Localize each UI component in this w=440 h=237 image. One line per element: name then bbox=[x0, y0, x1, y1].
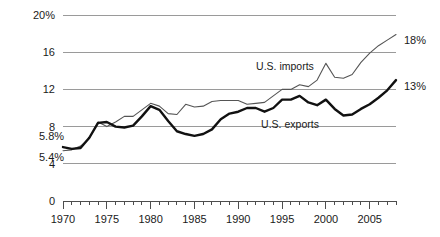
chart-container: 048121620% 19701975198019851990199520002… bbox=[0, 0, 440, 237]
gridlines bbox=[63, 15, 396, 164]
exports-end-value: 13% bbox=[404, 80, 426, 92]
imports-start-value: 5.4% bbox=[39, 151, 64, 163]
imports-series-label: U.S. imports bbox=[256, 60, 314, 72]
line-chart: 048121620% 19701975198019851990199520002… bbox=[0, 0, 440, 237]
x-axis bbox=[63, 201, 396, 209]
y-tick-label-16: 16 bbox=[43, 46, 55, 58]
y-tick-label-0: 0 bbox=[49, 195, 55, 207]
x-axis-labels: 19701975198019851990199520002005 bbox=[51, 213, 382, 225]
y-tick-label-20%: 20% bbox=[33, 9, 55, 21]
x-tick-label-1995: 1995 bbox=[270, 213, 294, 225]
x-tick-label-1990: 1990 bbox=[226, 213, 250, 225]
x-tick-label-2005: 2005 bbox=[357, 213, 381, 225]
x-tick-label-2000: 2000 bbox=[314, 213, 338, 225]
exports-start-value: 5.8% bbox=[39, 130, 64, 142]
exports-series-label: U.S. exports bbox=[261, 118, 319, 130]
x-tick-label-1985: 1985 bbox=[182, 213, 206, 225]
x-tick-label-1980: 1980 bbox=[138, 213, 162, 225]
series-line-u-s-exports bbox=[63, 80, 396, 149]
x-tick-label-1975: 1975 bbox=[95, 213, 119, 225]
y-axis-labels: 048121620% bbox=[33, 9, 55, 207]
imports-end-value: 18% bbox=[404, 34, 426, 46]
y-tick-label-12: 12 bbox=[43, 83, 55, 95]
chart-annotations: U.S. importsU.S. exports5.4%5.8%18%13% bbox=[39, 34, 426, 163]
x-tick-label-1970: 1970 bbox=[51, 213, 75, 225]
